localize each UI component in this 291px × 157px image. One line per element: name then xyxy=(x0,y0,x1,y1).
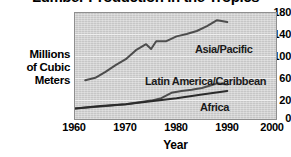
x-tick-1980: 1980 xyxy=(153,121,199,133)
y-axis-label-line-3: Meters xyxy=(0,74,70,87)
chart-container: Lumber Production in the Tropics 180 140… xyxy=(0,0,291,157)
series-lines xyxy=(75,13,277,120)
plot-area: Asia/Pacific Latin America/Caribbean Afr… xyxy=(74,12,277,120)
y-axis-label: Millions of Cubic Meters xyxy=(0,48,70,87)
x-tick-1960: 1960 xyxy=(51,121,97,133)
x-tick-1970: 1970 xyxy=(102,121,148,133)
y-axis-label-line-1: Millions xyxy=(0,48,70,61)
y-axis-label-line-2: of Cubic xyxy=(0,61,70,74)
series-label-latin-america-caribbean: Latin America/Caribbean xyxy=(145,75,266,87)
x-tick-1990: 1990 xyxy=(204,121,250,133)
series-label-asia-pacific: Asia/Pacific xyxy=(195,43,253,55)
x-tick-2000: 2000 xyxy=(249,121,291,133)
series-label-africa: Africa xyxy=(200,101,229,113)
x-axis-label: Year xyxy=(74,138,277,152)
chart-title: Lumber Production in the Tropics xyxy=(0,0,291,5)
